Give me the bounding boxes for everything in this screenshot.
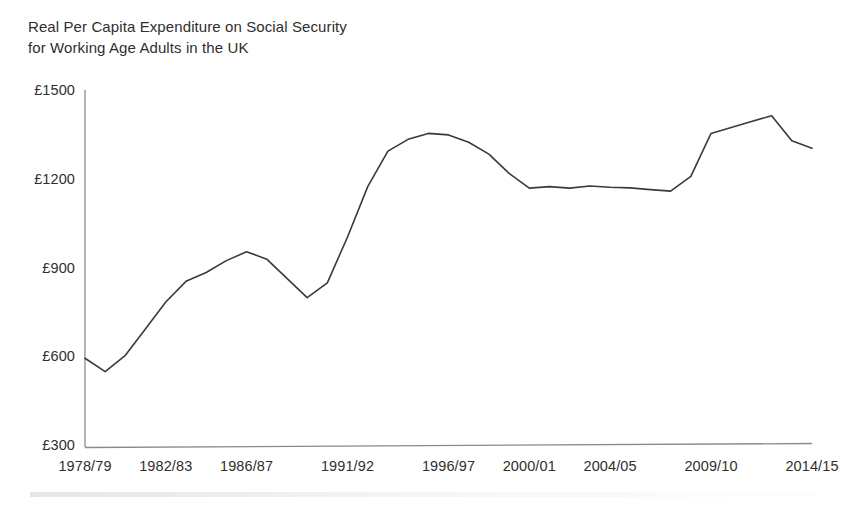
scan-artifact-band (30, 492, 820, 497)
line-chart-plot (0, 0, 857, 505)
data-series-line (85, 116, 812, 372)
chart-figure: Real Per Capita Expenditure on Social Se… (0, 0, 857, 505)
x-axis-line (85, 444, 812, 448)
